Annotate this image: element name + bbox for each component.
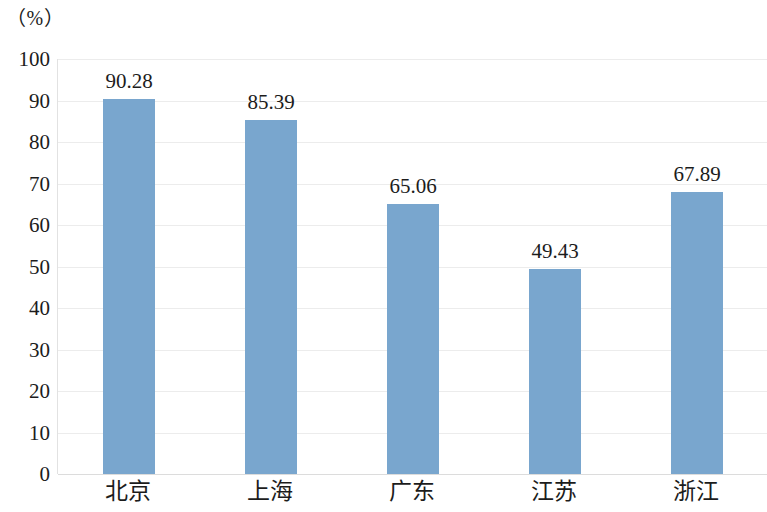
y-axis-unit-label: （%）	[6, 8, 64, 28]
bar-value-label: 90.28	[105, 71, 152, 92]
x-axis-tick-label: 浙江	[673, 478, 719, 506]
x-axis-tick-label: 上海	[247, 478, 293, 506]
bar-chart: （%） 0102030405060708090100 90.2885.3965.…	[0, 0, 767, 512]
gridline	[58, 101, 767, 102]
y-axis-tick-label: 100	[4, 49, 50, 70]
y-axis-tick-label: 20	[4, 381, 50, 402]
y-axis-tick-label: 50	[4, 256, 50, 277]
bar	[529, 269, 581, 474]
plot-area: 90.2885.3965.0649.4367.89	[57, 59, 767, 474]
y-axis: 0102030405060708090100	[0, 59, 50, 474]
gridline	[58, 142, 767, 143]
x-axis-tick-label: 北京	[105, 478, 151, 506]
x-axis-tick-label: 广东	[389, 478, 435, 506]
y-axis-tick-label: 60	[4, 215, 50, 236]
bar-value-label: 49.43	[531, 241, 578, 262]
x-axis-tick-label: 江苏	[531, 478, 577, 506]
y-axis-tick-label: 0	[4, 464, 50, 485]
y-axis-tick-label: 90	[4, 90, 50, 111]
y-axis-tick-label: 80	[4, 132, 50, 153]
bar	[103, 99, 155, 474]
y-axis-tick-label: 70	[4, 173, 50, 194]
bar	[671, 192, 723, 474]
bar-value-label: 85.39	[247, 92, 294, 113]
bar	[245, 120, 297, 474]
y-axis-tick-label: 10	[4, 422, 50, 443]
x-axis-baseline	[58, 474, 767, 475]
y-axis-tick-label: 40	[4, 298, 50, 319]
y-axis-tick-label: 30	[4, 339, 50, 360]
bar-value-label: 65.06	[389, 176, 436, 197]
gridline	[58, 59, 767, 60]
bar	[387, 204, 439, 474]
x-axis: 北京上海广东江苏浙江	[57, 478, 767, 512]
bar-value-label: 67.89	[673, 164, 720, 185]
